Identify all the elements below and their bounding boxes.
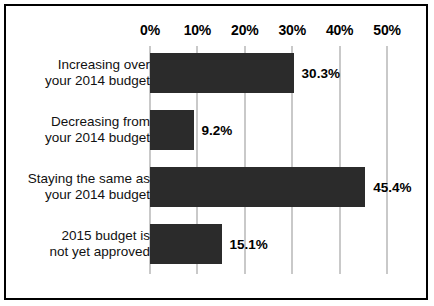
x-axis-tick-30: 30%: [278, 22, 305, 38]
category-label-line2: your 2014 budget: [45, 130, 150, 145]
category-label: Staying the same as your 2014 budget: [4, 171, 150, 203]
x-axis-tick-10: 10%: [184, 22, 211, 38]
x-axis-tick-20: 20%: [231, 22, 258, 38]
x-axis-tick-0: 0%: [140, 22, 160, 38]
bar: [150, 53, 294, 93]
x-axis-tick-labels: 0% 10% 20% 30% 40% 50%: [6, 22, 426, 42]
category-label-wrap: Increasing over your 2014 budget: [6, 50, 150, 96]
category-label-line1: Increasing over: [58, 57, 150, 72]
category-label-line2: not yet approved: [49, 244, 150, 259]
bar-row: Increasing over your 2014 budget 30.3%: [6, 50, 426, 96]
x-axis-tick-40: 40%: [326, 22, 353, 38]
category-label: Decreasing from your 2014 budget: [4, 114, 150, 146]
bar-value-label: 9.2%: [202, 123, 233, 138]
category-label-wrap: Decreasing from your 2014 budget: [6, 107, 150, 153]
bar-rows: Increasing over your 2014 budget 30.3% D…: [6, 46, 426, 274]
bar-value-label: 15.1%: [230, 237, 268, 252]
x-axis-tick-50: 50%: [373, 22, 400, 38]
bar-row: Decreasing from your 2014 budget 9.2%: [6, 107, 426, 153]
category-label-wrap: Staying the same as your 2014 budget: [6, 164, 150, 210]
bar-row: Staying the same as your 2014 budget 45.…: [6, 164, 426, 210]
category-label: Increasing over your 2014 budget: [4, 57, 150, 89]
category-label-line1: 2015 budget is: [61, 228, 150, 243]
category-label-line2: your 2014 budget: [45, 73, 150, 88]
bar: [150, 167, 365, 207]
bar-chart: 0% 10% 20% 30% 40% 50% Increasing over y…: [6, 6, 426, 298]
bar-value-label: 30.3%: [302, 66, 340, 81]
bar: [150, 224, 222, 264]
category-label-line1: Staying the same as: [28, 171, 150, 186]
bar-row: 2015 budget is not yet approved 15.1%: [6, 221, 426, 267]
category-label-wrap: 2015 budget is not yet approved: [6, 221, 150, 267]
category-label: 2015 budget is not yet approved: [4, 228, 150, 260]
chart-frame: 0% 10% 20% 30% 40% 50% Increasing over y…: [4, 4, 428, 300]
category-label-line1: Decreasing from: [51, 114, 150, 129]
bar: [150, 110, 194, 150]
bar-value-label: 45.4%: [373, 180, 411, 195]
category-label-line2: your 2014 budget: [45, 187, 150, 202]
